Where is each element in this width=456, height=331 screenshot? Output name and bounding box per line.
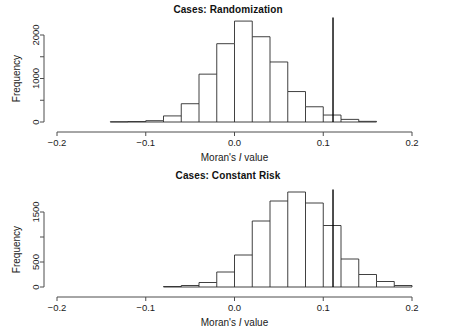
x-axis-tick-label: 0.1 — [317, 137, 330, 148]
x-axis-tick-label: −0.1 — [136, 302, 155, 313]
x-axis-tick-label: 0.2 — [405, 302, 418, 313]
histogram-bars — [110, 21, 376, 122]
x-axis-tick-label: 0.1 — [317, 302, 330, 313]
y-axis-tick-label: 0 — [30, 284, 41, 289]
x-axis-tick-label: −0.2 — [48, 137, 67, 148]
histogram-panel-randomization: Cases: Randomization −0.2−0.10.00.10.201… — [0, 0, 456, 165]
y-axis-tick-label: 2000 — [30, 24, 41, 45]
y-axis-tick-label: 500 — [30, 254, 41, 270]
y-axis-title: Frequency — [11, 226, 22, 273]
y-axis-title: Frequency — [11, 55, 22, 102]
histogram-plot-constant-risk: −0.2−0.10.00.10.205001500FrequencyMoran'… — [0, 166, 456, 331]
y-axis-tick-label: 1500 — [30, 201, 41, 222]
x-axis-tick-label: 0.0 — [228, 137, 241, 148]
y-axis-tick-label: 0 — [30, 119, 41, 124]
x-axis-title: Moran's I value — [201, 152, 269, 163]
x-axis-tick-label: 0.2 — [405, 137, 418, 148]
x-axis-tick-label: −0.1 — [136, 137, 155, 148]
x-axis-tick-label: −0.2 — [48, 302, 67, 313]
histogram-plot-randomization: −0.2−0.10.00.10.2010002000FrequencyMoran… — [0, 0, 456, 165]
x-axis-tick-label: 0.0 — [228, 302, 241, 313]
x-axis-title: Moran's I value — [201, 317, 269, 328]
y-axis-tick-label: 1000 — [30, 68, 41, 89]
histogram-panel-constant-risk: Cases: Constant Risk −0.2−0.10.00.10.205… — [0, 166, 456, 331]
